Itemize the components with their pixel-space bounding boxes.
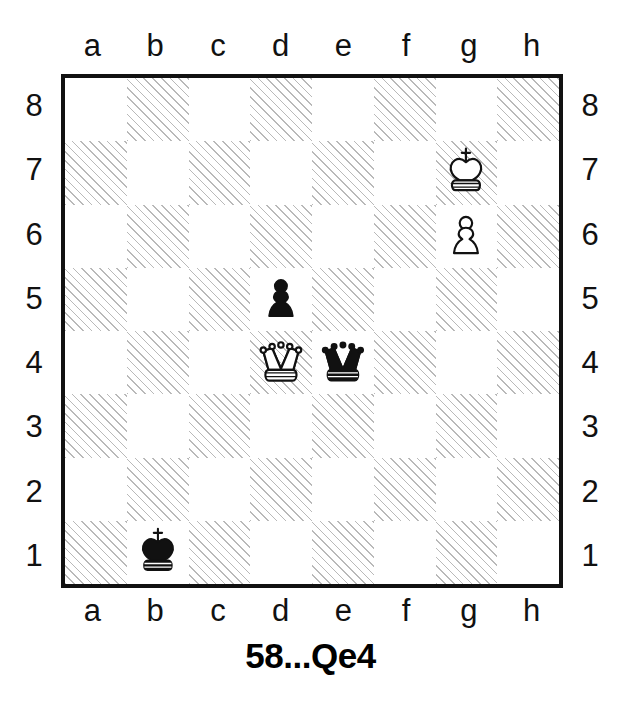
square-d3[interactable]	[250, 394, 312, 457]
black-queen-icon[interactable]	[312, 331, 374, 394]
file-label-e-bottom: e	[312, 592, 375, 630]
square-h7[interactable]	[497, 141, 559, 204]
square-e7[interactable]	[312, 141, 374, 204]
square-a1[interactable]	[65, 521, 127, 584]
square-d8[interactable]	[250, 78, 312, 141]
square-a6[interactable]	[65, 205, 127, 268]
square-f4[interactable]	[374, 331, 436, 394]
square-c1[interactable]	[189, 521, 251, 584]
chess-board-grid	[65, 78, 559, 584]
file-label-d-top: d	[249, 27, 312, 65]
square-f3[interactable]	[374, 394, 436, 457]
rank-label-7-right: 7	[568, 138, 612, 202]
square-h2[interactable]	[497, 458, 559, 521]
file-label-a-bottom: a	[61, 592, 124, 630]
square-b4[interactable]	[127, 331, 189, 394]
square-a7[interactable]	[65, 141, 127, 204]
square-a5[interactable]	[65, 268, 127, 331]
file-labels-bottom: a b c d e f g h	[61, 592, 563, 630]
square-e3[interactable]	[312, 394, 374, 457]
rank-label-4-right: 4	[568, 331, 612, 395]
file-label-a-top: a	[61, 27, 124, 65]
square-g8[interactable]	[436, 78, 498, 141]
square-e5[interactable]	[312, 268, 374, 331]
square-h1[interactable]	[497, 521, 559, 584]
square-h3[interactable]	[497, 394, 559, 457]
square-g5[interactable]	[436, 268, 498, 331]
white-pawn-icon[interactable]	[436, 205, 498, 268]
file-label-f-bottom: f	[375, 592, 438, 630]
rank-label-3-right: 3	[568, 395, 612, 459]
square-f7[interactable]	[374, 141, 436, 204]
white-king-icon[interactable]	[436, 141, 498, 204]
file-label-d-bottom: d	[249, 592, 312, 630]
square-f1[interactable]	[374, 521, 436, 584]
square-g3[interactable]	[436, 394, 498, 457]
rank-label-7-left: 7	[12, 138, 56, 202]
square-c2[interactable]	[189, 458, 251, 521]
square-b7[interactable]	[127, 141, 189, 204]
rank-label-2-right: 2	[568, 460, 612, 524]
square-b6[interactable]	[127, 205, 189, 268]
square-c7[interactable]	[189, 141, 251, 204]
square-e8[interactable]	[312, 78, 374, 141]
file-label-g-top: g	[438, 27, 501, 65]
rank-label-5-right: 5	[568, 267, 612, 331]
white-queen-icon[interactable]	[250, 331, 312, 394]
move-caption: 58...Qe4	[0, 636, 621, 676]
square-g4[interactable]	[436, 331, 498, 394]
file-label-c-bottom: c	[187, 592, 250, 630]
rank-label-8-right: 8	[568, 74, 612, 138]
square-b5[interactable]	[127, 268, 189, 331]
rank-label-3-left: 3	[12, 395, 56, 459]
square-d6[interactable]	[250, 205, 312, 268]
square-c4[interactable]	[189, 331, 251, 394]
square-h8[interactable]	[497, 78, 559, 141]
square-b1[interactable]	[127, 521, 189, 584]
file-label-b-bottom: b	[124, 592, 187, 630]
square-e6[interactable]	[312, 205, 374, 268]
file-label-h-top: h	[500, 27, 563, 65]
square-h4[interactable]	[497, 331, 559, 394]
square-f2[interactable]	[374, 458, 436, 521]
black-king-icon[interactable]	[127, 521, 189, 584]
square-a3[interactable]	[65, 394, 127, 457]
square-f6[interactable]	[374, 205, 436, 268]
square-c8[interactable]	[189, 78, 251, 141]
square-g2[interactable]	[436, 458, 498, 521]
square-a2[interactable]	[65, 458, 127, 521]
square-a4[interactable]	[65, 331, 127, 394]
black-pawn-icon[interactable]	[250, 268, 312, 331]
square-h6[interactable]	[497, 205, 559, 268]
square-a8[interactable]	[65, 78, 127, 141]
square-b8[interactable]	[127, 78, 189, 141]
square-b3[interactable]	[127, 394, 189, 457]
square-d1[interactable]	[250, 521, 312, 584]
square-e2[interactable]	[312, 458, 374, 521]
square-c6[interactable]	[189, 205, 251, 268]
square-g1[interactable]	[436, 521, 498, 584]
rank-label-1-left: 1	[12, 524, 56, 588]
square-e4[interactable]	[312, 331, 374, 394]
square-d7[interactable]	[250, 141, 312, 204]
file-label-g-bottom: g	[438, 592, 501, 630]
square-d2[interactable]	[250, 458, 312, 521]
square-c5[interactable]	[189, 268, 251, 331]
rank-label-1-right: 1	[568, 524, 612, 588]
square-d4[interactable]	[250, 331, 312, 394]
square-b2[interactable]	[127, 458, 189, 521]
square-h5[interactable]	[497, 268, 559, 331]
square-d5[interactable]	[250, 268, 312, 331]
square-c3[interactable]	[189, 394, 251, 457]
chess-diagram-page: a b c d e f g h 8 7 6 5 4 3 2 1 8 7 6 5 …	[0, 0, 621, 716]
square-g6[interactable]	[436, 205, 498, 268]
rank-label-2-left: 2	[12, 460, 56, 524]
chess-board	[61, 74, 563, 588]
rank-label-6-left: 6	[12, 203, 56, 267]
square-g7[interactable]	[436, 141, 498, 204]
file-label-b-top: b	[124, 27, 187, 65]
square-e1[interactable]	[312, 521, 374, 584]
square-f8[interactable]	[374, 78, 436, 141]
square-f5[interactable]	[374, 268, 436, 331]
rank-label-4-left: 4	[12, 331, 56, 395]
